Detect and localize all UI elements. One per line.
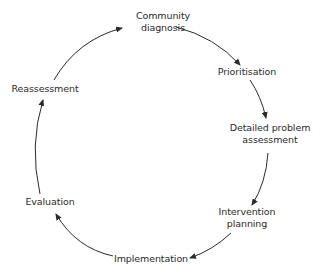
node-prioritisation: Prioritisation	[218, 66, 276, 78]
arrow-evaluation-to-reassessment	[35, 100, 43, 194]
node-label-line1: Intervention	[219, 206, 276, 218]
arrow-reassessment-to-diagnosis	[54, 28, 122, 80]
node-label-line1: Implementation	[114, 253, 188, 265]
node-reassessment: Reassessment	[11, 83, 78, 95]
node-label-line2: planning	[219, 218, 276, 230]
node-label-line1: Community	[136, 10, 190, 22]
node-community-diagnosis: Community diagnosis	[136, 10, 190, 34]
node-label-line1: Detailed problem	[230, 122, 311, 134]
node-label-line1: Evaluation	[25, 196, 74, 208]
node-intervention-planning: Intervention planning	[219, 206, 276, 230]
arrow-implementation-to-evaluation	[56, 214, 113, 256]
arrow-prioritisation-to-assessment	[250, 80, 266, 118]
arrow-planning-to-implementation	[190, 233, 231, 258]
arrow-assessment-to-planning	[252, 153, 268, 205]
node-detailed-problem-assessment: Detailed problem assessment	[230, 122, 311, 146]
node-label-line2: diagnosis	[136, 22, 190, 34]
node-label-line1: Prioritisation	[218, 66, 276, 78]
node-implementation: Implementation	[114, 253, 188, 265]
node-evaluation: Evaluation	[25, 196, 74, 208]
node-label-line2: assessment	[230, 134, 311, 146]
node-label-line1: Reassessment	[11, 83, 78, 95]
